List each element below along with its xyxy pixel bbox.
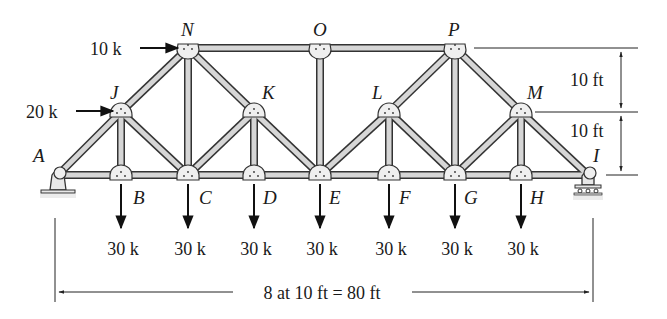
joint-label-E: E xyxy=(328,187,341,208)
joint-label-K: K xyxy=(261,82,276,103)
gusset-P xyxy=(444,44,466,59)
load-label-C: 30 k xyxy=(174,239,206,259)
joint-label-A: A xyxy=(31,145,45,166)
height-dimension: 10 ft 10 ft xyxy=(474,48,638,175)
joint-label-C: C xyxy=(199,187,212,208)
gusset-I xyxy=(584,167,596,179)
gusset-N xyxy=(177,44,199,59)
load-label-F: 30 k xyxy=(375,239,407,259)
joint-label-J: J xyxy=(110,82,120,103)
load-label-H: 30 k xyxy=(507,239,539,259)
span-dimension: 8 at 10 ft = 80 ft xyxy=(55,218,593,303)
joint-label-P: P xyxy=(447,19,460,40)
load-label-B: 30 k xyxy=(107,239,139,259)
joint-label-I: I xyxy=(592,145,601,166)
joint-label-O: O xyxy=(313,19,327,40)
load-label-D: 30 k xyxy=(240,239,272,259)
truss-diagram: ABCDEFGHIJKLMNOP 10 k20 k 30 k30 k30 k30… xyxy=(0,0,667,319)
gusset-plates xyxy=(54,44,596,180)
gusset-O xyxy=(309,44,331,59)
joint-label-B: B xyxy=(133,187,145,208)
joint-label-H: H xyxy=(529,187,545,208)
load-label-N: 10 k xyxy=(90,39,122,59)
load-label-J: 20 k xyxy=(26,102,58,122)
joint-label-D: D xyxy=(262,187,277,208)
height-lower-label: 10 ft xyxy=(570,121,604,141)
gusset-A xyxy=(54,167,66,179)
joint-label-M: M xyxy=(526,82,544,103)
load-label-E: 30 k xyxy=(306,239,338,259)
joint-label-N: N xyxy=(180,19,195,40)
load-label-G: 30 k xyxy=(441,239,473,259)
joint-label-F: F xyxy=(398,187,411,208)
truss-members xyxy=(58,48,588,175)
span-label: 8 at 10 ft = 80 ft xyxy=(263,283,380,303)
joint-label-G: G xyxy=(464,187,478,208)
joint-label-L: L xyxy=(371,82,383,103)
height-upper-label: 10 ft xyxy=(570,70,604,90)
